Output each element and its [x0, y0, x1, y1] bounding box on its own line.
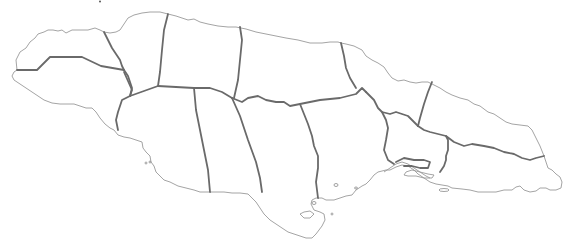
- islet: [149, 161, 151, 163]
- coastline: [12, 12, 562, 238]
- map-marker-dot: [99, 1, 101, 3]
- islet: [312, 202, 316, 205]
- islet: [331, 213, 333, 215]
- map-canvas: [0, 0, 568, 244]
- islet: [439, 189, 449, 192]
- jamaica-parish-map: Hanover Westmoreland St. James Trelawny …: [0, 0, 568, 244]
- islet: [145, 162, 147, 164]
